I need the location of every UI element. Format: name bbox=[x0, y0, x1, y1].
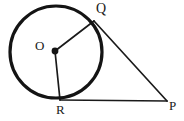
point-label-Q: Q bbox=[96, 2, 106, 16]
point-label-P: P bbox=[169, 99, 176, 112]
segment-OQ bbox=[55, 21, 94, 51]
point-label-O: O bbox=[35, 39, 44, 52]
segment-RP bbox=[60, 100, 167, 101]
center-point-dot bbox=[52, 48, 59, 55]
geometry-canvas bbox=[0, 0, 184, 121]
geometry-figure: O Q R P bbox=[0, 0, 184, 121]
segment-OR bbox=[55, 51, 60, 100]
point-label-R: R bbox=[56, 103, 65, 116]
segment-QP bbox=[94, 21, 167, 101]
